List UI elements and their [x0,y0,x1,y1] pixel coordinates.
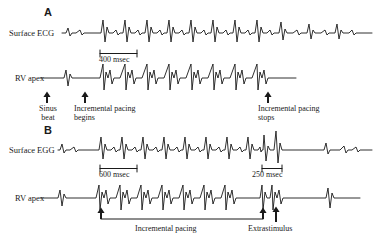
ep-recording-figure: A Surface ECG RV apex 400 msec Sinus bea… [0,0,378,248]
annotation-sinus-beat-line1: Sinus [33,104,63,113]
trace-b-rv-apex [40,185,360,210]
arrow-bracket-right [259,208,266,220]
trace-b-surface-egg [58,131,372,163]
panel-letter-b: B [44,124,52,136]
trace-label-rv-apex-a: RV apex [15,73,44,83]
waveform-canvas [0,0,378,248]
arrow-bracket-left [97,208,104,220]
annotation-incremental-pacing-stops: Incremental pacing stops [258,104,320,122]
arrow-incremental-pacing-begins [81,92,88,104]
annotation-incremental-pacing-begins-line2: begins [74,113,136,122]
annotation-incremental-pacing-begins-line1: Incremental pacing [74,104,136,113]
arrow-incremental-pacing-stops [264,92,271,104]
annotation-incremental-pacing: Incremental pacing [135,224,197,233]
annotation-incremental-pacing-begins: Incremental pacing begins [74,104,136,122]
annotation-sinus-beat-line2: beat [33,113,63,122]
trace-label-rv-apex-b: RV apex [15,193,44,203]
annotation-incremental-pacing-stops-line1: Incremental pacing [258,104,320,113]
scale-bar-label-250: 250 msec [252,170,282,179]
trace-a-surface-ecg [62,20,372,42]
trace-a-rv-apex [40,64,296,90]
trace-label-surface-egg: Surface EGG [9,145,55,155]
annotation-incremental-pacing-stops-line2: stops [258,113,320,122]
annotation-extrastimulus: Extrastimulus [248,224,292,233]
scale-bar-label-600: 600 msec [99,170,129,179]
panel-letter-a: A [44,6,52,18]
trace-label-surface-ecg: Surface ECG [9,28,54,38]
scale-bar-label-400: 400 msec [99,55,129,64]
annotation-sinus-beat: Sinus beat [33,104,63,122]
arrow-sinus-beat [43,92,50,104]
